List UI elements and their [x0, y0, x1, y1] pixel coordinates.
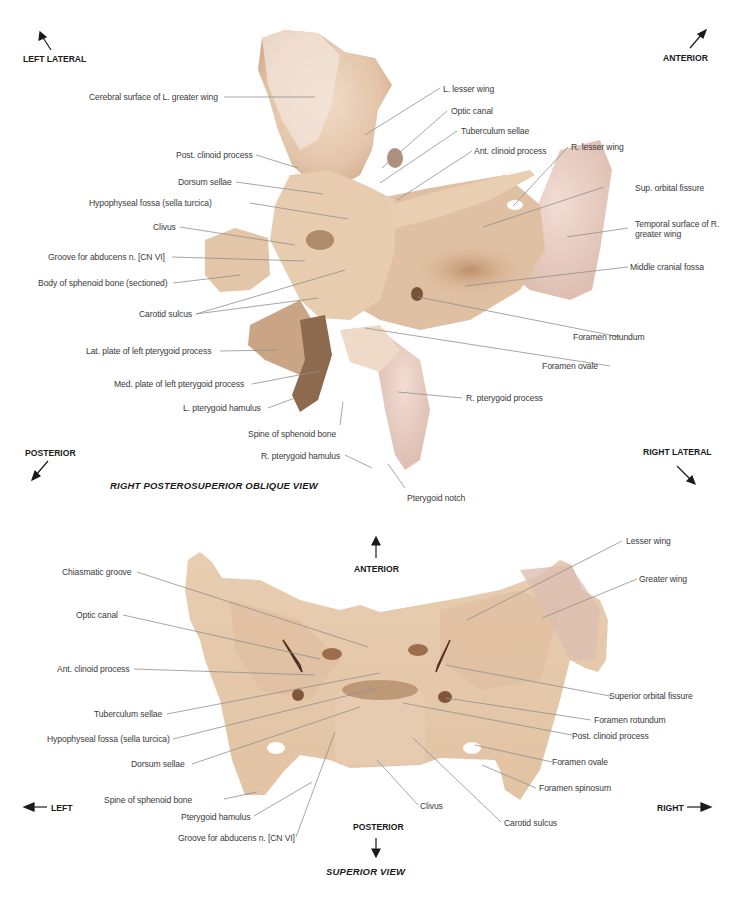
label-r-pterygoid-process: R. pterygoid process [466, 393, 543, 403]
label-sup-orbital-fissure: Sup. orbital fissure [635, 183, 704, 193]
label-optic-canal-bottom: Optic canal [76, 610, 118, 620]
label-tuberculum-sellae-bottom: Tuberculum sellae [94, 709, 162, 719]
label-middle-cranial-fossa: Middle cranial fossa [630, 262, 704, 272]
label-cerebral-surface-l-greater-wing: Cerebral surface of L. greater wing [89, 92, 218, 102]
label-temporal-surface-r-greater-wing: Temporal surface of R. greater wing [635, 219, 725, 239]
view-title-oblique: RIGHT POSTEROSUPERIOR OBLIQUE VIEW [110, 480, 318, 491]
label-foramen-rotundum-top: Foramen rotundum [573, 332, 644, 342]
label-hypophyseal-fossa-bottom: Hypophyseal fossa (sella turcica) [47, 734, 170, 744]
label-optic-canal-top: Optic canal [451, 106, 493, 116]
orientation-posterior-top: POSTERIOR [25, 448, 76, 458]
label-foramen-ovale-top: Foramen ovale [542, 361, 598, 371]
sphenoid-bone-figure: LEFT LATERAL ANTERIOR POSTERIOR RIGHT LA… [0, 0, 734, 899]
label-spine-sphenoid-top: Spine of sphenoid bone [248, 429, 336, 439]
label-r-lesser-wing: R. lesser wing [571, 142, 624, 152]
label-lat-plate-left-pterygoid: Lat. plate of left pterygoid process [86, 346, 211, 356]
orientation-right-lateral: RIGHT LATERAL [643, 447, 712, 457]
label-l-lesser-wing: L. lesser wing [443, 84, 494, 94]
label-carotid-sulcus-top: Carotid sulcus [139, 309, 192, 319]
label-l-pterygoid-hamulus: L. pterygoid hamulus [183, 403, 261, 413]
label-chiasmatic-groove: Chiasmatic groove [62, 567, 131, 577]
label-body-sphenoid-sectioned: Body of sphenoid bone (sectioned) [38, 278, 168, 288]
label-foramen-rotundum-bottom: Foramen rotundum [594, 715, 665, 725]
label-post-clinoid-process-bottom: Post. clinoid process [572, 731, 649, 741]
label-greater-wing: Greater wing [639, 574, 687, 584]
orientation-anterior-bottom: ANTERIOR [354, 564, 399, 574]
label-foramen-ovale-bottom: Foramen ovale [552, 757, 608, 767]
label-groove-abducens-top: Groove for abducens n. [CN VI] [48, 252, 165, 262]
label-med-plate-left-pterygoid: Med. plate of left pterygoid process [114, 379, 244, 389]
orientation-right: RIGHT [657, 803, 684, 813]
label-lesser-wing: Lesser wing [626, 536, 671, 546]
label-hypophyseal-fossa-top: Hypophyseal fossa (sella turcica) [89, 198, 212, 208]
orientation-posterior-bottom: POSTERIOR [353, 822, 404, 832]
bone-illustration [0, 0, 734, 899]
label-carotid-sulcus-bottom: Carotid sulcus [504, 818, 557, 828]
view-title-superior: SUPERIOR VIEW [326, 866, 405, 877]
label-foramen-spinosum: Foramen spinosum [539, 783, 611, 793]
label-spine-sphenoid-bottom: Spine of sphenoid bone [104, 795, 192, 805]
label-r-pterygoid-hamulus: R. pterygoid hamulus [261, 451, 340, 461]
label-superior-orbital-fissure: Superior orbital fissure [609, 691, 693, 701]
label-ant-clinoid-process-top: Ant. clinoid process [474, 146, 547, 156]
label-clivus-bottom: Clivus [420, 801, 443, 811]
label-post-clinoid-process-top: Post. clinoid process [176, 150, 253, 160]
label-dorsum-sellae-top: Dorsum sellae [178, 177, 232, 187]
label-pterygoid-notch: Pterygoid notch [407, 493, 465, 503]
label-clivus-top: Clivus [153, 222, 176, 232]
orientation-left-lateral: LEFT LATERAL [23, 54, 86, 64]
label-ant-clinoid-process-bottom: Ant. clinoid process [57, 664, 130, 674]
orientation-anterior-top: ANTERIOR [663, 53, 708, 63]
label-pterygoid-hamulus: Pterygoid hamulus [181, 812, 250, 822]
label-groove-abducens-bottom: Groove for abducens n. [CN VI] [178, 833, 295, 843]
label-dorsum-sellae-bottom: Dorsum sellae [131, 759, 185, 769]
label-tuberculum-sellae-top: Tuberculum sellae [461, 126, 529, 136]
oblique-view-bone [205, 30, 612, 470]
superior-view-bone [185, 552, 608, 800]
orientation-left: LEFT [51, 803, 72, 813]
